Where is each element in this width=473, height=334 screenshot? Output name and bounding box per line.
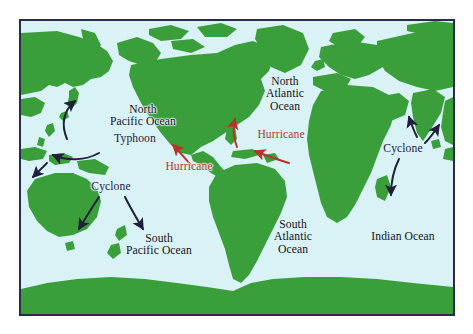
label-typhoon: Typhoon xyxy=(99,133,171,145)
world-map-graphic xyxy=(21,21,453,314)
label-north-pacific-ocean: North Pacific Ocean xyxy=(97,104,189,129)
cyclone-world-map-figure: North Pacific Ocean Typhoon North Atlant… xyxy=(0,0,473,334)
map-frame: North Pacific Ocean Typhoon North Atlant… xyxy=(19,19,455,316)
label-cyclone-south-pacific: Cyclone xyxy=(75,181,147,193)
label-hurricane-north-atlantic: Hurricane xyxy=(239,129,323,141)
label-north-atlantic-ocean: North Atlantic Ocean xyxy=(249,76,321,113)
label-south-atlantic-ocean: South Atlantic Ocean xyxy=(257,219,329,256)
label-indian-ocean: Indian Ocean xyxy=(357,231,449,243)
label-hurricane-east-pacific: Hurricane xyxy=(147,161,231,173)
label-cyclone-indian-ocean: Cyclone xyxy=(367,143,439,155)
label-south-pacific-ocean: South Pacific Ocean xyxy=(113,233,205,258)
